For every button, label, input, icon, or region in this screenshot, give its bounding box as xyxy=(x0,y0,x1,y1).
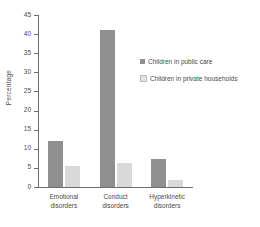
bar[interactable] xyxy=(168,180,183,187)
category-label-line: Hyperkinetic xyxy=(136,193,198,202)
legend-swatch-icon xyxy=(140,59,145,64)
y-axis-tick-label: 30 xyxy=(24,68,31,75)
y-axis-tick-label: 40 xyxy=(24,30,31,37)
y-axis-title: Percentage xyxy=(5,52,12,124)
bar-group xyxy=(38,15,90,187)
y-axis-tick-label: 45 xyxy=(24,11,31,18)
y-axis-tick: 0 xyxy=(34,187,38,188)
plot-area: 051015202530354045 EmotionaldisordersCon… xyxy=(38,15,193,188)
y-axis-tick-label: 5 xyxy=(27,163,31,170)
y-axis-tick-label: 25 xyxy=(24,87,31,94)
x-axis-line xyxy=(38,187,193,188)
legend-item[interactable]: Children in private households xyxy=(140,75,258,82)
y-axis-title-container: Percentage xyxy=(0,0,16,200)
legend-item[interactable]: Children in public care xyxy=(140,58,258,65)
bar[interactable] xyxy=(151,159,166,187)
legend-label: Children in private households xyxy=(150,75,237,82)
x-axis-category-label: Hyperkineticdisorders xyxy=(136,193,198,210)
bar-group xyxy=(90,15,142,187)
y-axis-tick-label: 20 xyxy=(24,106,31,113)
chart-legend: Children in public careChildren in priva… xyxy=(140,58,258,92)
bar-group xyxy=(141,15,193,187)
bar-chart-figure: Percentage 051015202530354045 Emotionald… xyxy=(0,0,260,227)
y-axis-tick-label: 0 xyxy=(27,183,31,190)
bar[interactable] xyxy=(65,166,80,187)
y-axis-tick-label: 10 xyxy=(24,144,31,151)
legend-swatch-icon xyxy=(140,75,147,82)
bar[interactable] xyxy=(100,30,115,187)
legend-label: Children in public care xyxy=(148,58,212,65)
category-label-line: disorders xyxy=(136,202,198,211)
y-axis-tick-label: 35 xyxy=(24,49,31,56)
bar[interactable] xyxy=(117,163,132,187)
bar[interactable] xyxy=(48,141,63,187)
y-axis-tick-label: 15 xyxy=(24,125,31,132)
